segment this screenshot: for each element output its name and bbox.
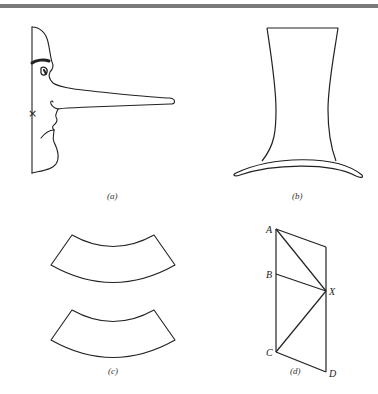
- caption-c: (c): [108, 366, 118, 376]
- point-label-B: B: [266, 269, 272, 280]
- eyebrow: [32, 60, 49, 63]
- caption-d: (d): [290, 366, 301, 376]
- panel-b-hat: [234, 28, 363, 177]
- forehead-and-nose: [32, 27, 175, 109]
- panel-a-face: [32, 27, 175, 173]
- hat-crown-right: [267, 28, 338, 161]
- chin-jaw: [32, 130, 58, 173]
- point-label-A: A: [265, 224, 273, 235]
- point-label-D: D: [328, 368, 337, 379]
- hat-brim: [234, 160, 363, 178]
- caption-a: (a): [107, 191, 118, 201]
- point-label-X: X: [328, 286, 336, 297]
- illusion-figure: × A B C D X: [0, 0, 378, 394]
- mouth-line: [41, 130, 54, 138]
- upper-arc-segment: [51, 235, 175, 283]
- panel-d-geometry: [276, 229, 326, 372]
- x-mark-icon: ×: [28, 107, 37, 120]
- line-CX: [276, 291, 326, 352]
- lips: [53, 109, 58, 130]
- point-label-C: C: [266, 347, 273, 358]
- line-CD: [276, 352, 326, 372]
- lower-arc-segment: [51, 310, 175, 358]
- hat-crown-left: [262, 28, 276, 161]
- caption-b: (b): [292, 191, 303, 201]
- nostril-curl: [51, 101, 58, 109]
- eye-pupil: [44, 70, 46, 74]
- panel-c-arcs: [51, 235, 175, 358]
